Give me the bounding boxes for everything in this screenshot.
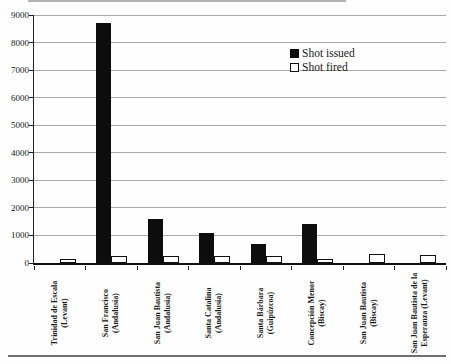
category-label-text: San Juan Bautista de laEsperanza (Levant… bbox=[410, 267, 429, 359]
y-axis-tick-label: 3000 bbox=[1, 175, 29, 185]
category-label-text: Trinidad de Escala(Levant) bbox=[49, 267, 68, 359]
category-label: Concepción Menor(Biscay) bbox=[291, 266, 343, 360]
shot-issued-bar bbox=[148, 219, 163, 263]
category-label: San Juan Bautista de laEsperanza (Levant… bbox=[394, 266, 446, 360]
y-axis-tick-label: 7000 bbox=[1, 65, 29, 75]
plot-area: 0100020003000400050006000700080009000 bbox=[33, 15, 446, 265]
shot-fired-bar bbox=[266, 256, 282, 263]
category-label-text: Santa Catalina(Andalusia) bbox=[204, 267, 223, 359]
category-label-text: San Juan Bautista(Andalusia) bbox=[152, 267, 171, 359]
category-label-text: Santa Bárbara(Guipúzcoa) bbox=[255, 267, 274, 359]
y-axis-tick bbox=[29, 180, 33, 181]
y-axis-tick bbox=[29, 152, 33, 153]
shot-fired-bar bbox=[111, 256, 127, 263]
shot-fired-bar bbox=[214, 256, 230, 263]
scanned-bar-chart-page: 0100020003000400050006000700080009000 Tr… bbox=[0, 0, 450, 364]
category-label: Trinidad de Escala(Levant) bbox=[33, 266, 85, 360]
y-axis-tick-label: 6000 bbox=[1, 93, 29, 103]
shot-issued-bar bbox=[96, 23, 111, 263]
y-axis-tick-label: 9000 bbox=[1, 10, 29, 20]
y-axis-tick-label: 2000 bbox=[1, 203, 29, 213]
category-label-text: Concepción Menor(Biscay) bbox=[307, 267, 326, 359]
shot-fired-bar bbox=[420, 255, 436, 263]
category-label: San Juan Bautista(Biscay) bbox=[342, 266, 394, 360]
shot-issued-bar bbox=[199, 233, 214, 263]
y-axis-tick bbox=[29, 263, 33, 264]
y-axis-tick bbox=[29, 70, 33, 71]
category-label: San Juan Bautista(Andalusia) bbox=[136, 266, 188, 360]
shot-fired-bar bbox=[60, 259, 76, 263]
page-crop-smudge bbox=[28, 0, 346, 2]
legend: Shot issued Shot fired bbox=[290, 47, 355, 75]
category-label-text: San Francisco(Andalusia) bbox=[101, 267, 120, 359]
legend-label-shot-issued: Shot issued bbox=[302, 47, 355, 60]
legend-label-shot-fired: Shot fired bbox=[302, 61, 348, 74]
y-axis-tick bbox=[29, 42, 33, 43]
y-axis-tick bbox=[29, 97, 33, 98]
x-axis-category-labels: Trinidad de Escala(Levant)San Francisco(… bbox=[33, 266, 445, 360]
shot-issued-bar bbox=[251, 244, 266, 263]
y-axis-tick-label: 0 bbox=[1, 258, 29, 268]
shot-issued-bar bbox=[302, 224, 317, 263]
shot-fired-bar bbox=[317, 259, 333, 263]
y-axis-tick-label: 8000 bbox=[1, 38, 29, 48]
category-label-text: San Juan Bautista(Biscay) bbox=[358, 267, 377, 359]
y-axis-tick-label: 5000 bbox=[1, 120, 29, 130]
legend-item-shot-fired: Shot fired bbox=[290, 61, 355, 74]
shot-issued-swatch-icon bbox=[290, 49, 299, 58]
y-axis-tick bbox=[29, 235, 33, 236]
gridline-9000 bbox=[34, 15, 446, 16]
y-axis-tick bbox=[29, 125, 33, 126]
y-axis-tick-label: 4000 bbox=[1, 148, 29, 158]
shot-fired-bar bbox=[163, 256, 179, 263]
shot-fired-swatch-icon bbox=[290, 63, 299, 72]
page-bottom-rule bbox=[8, 355, 446, 357]
x-axis-tick bbox=[446, 266, 447, 270]
legend-item-shot-issued: Shot issued bbox=[290, 47, 355, 60]
y-axis-tick-label: 1000 bbox=[1, 230, 29, 240]
category-label: San Francisco(Andalusia) bbox=[85, 266, 137, 360]
category-label: Santa Bárbara(Guipúzcoa) bbox=[239, 266, 291, 360]
y-axis-tick bbox=[29, 207, 33, 208]
y-axis-tick bbox=[29, 15, 33, 16]
shot-fired-bar bbox=[369, 254, 385, 263]
category-label: Santa Catalina(Andalusia) bbox=[188, 266, 240, 360]
